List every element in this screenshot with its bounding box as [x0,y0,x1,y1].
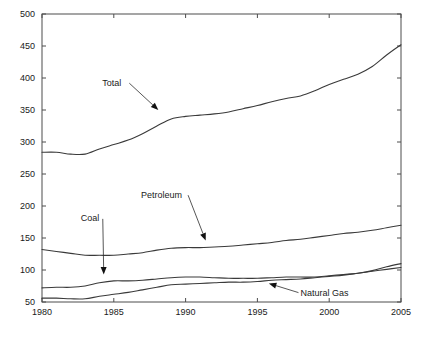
y-tick-label: 50 [25,297,35,307]
chart-figure: 5010015020025030035040045050019801985199… [0,0,428,342]
energy-consumption-line-chart: 5010015020025030035040045050019801985199… [0,0,428,342]
y-tick-label: 500 [20,9,35,19]
x-tick-label: 1980 [32,307,52,317]
y-tick-label: 100 [20,265,35,275]
x-tick-label: 1995 [247,307,267,317]
y-tick-label: 400 [20,73,35,83]
y-tick-label: 300 [20,137,35,147]
annotation-label-natural-gas: Natural Gas [300,288,349,298]
annotation-label-petroleum: Petroleum [141,190,182,200]
y-tick-label: 250 [20,169,35,179]
y-tick-label: 350 [20,105,35,115]
x-tick-label: 2005 [391,307,411,317]
y-tick-label: 200 [20,201,35,211]
chart-background [0,0,428,342]
x-tick-label: 1990 [176,307,196,317]
y-tick-label: 150 [20,233,35,243]
annotation-label-total: Total [102,78,121,88]
annotation-label-coal: Coal [81,213,100,223]
x-tick-label: 2000 [319,307,339,317]
x-tick-label: 1985 [104,307,124,317]
y-tick-label: 450 [20,41,35,51]
